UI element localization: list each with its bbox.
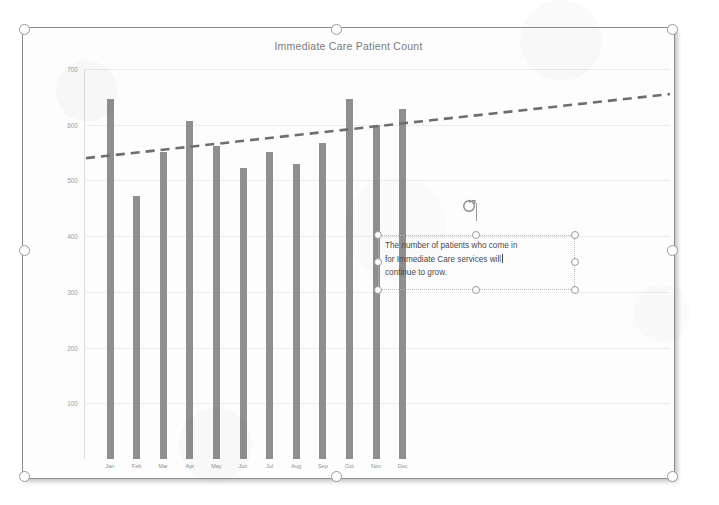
- textbox-line-3: continue to grow.: [385, 268, 447, 277]
- x-axis-tick-label: May: [211, 463, 221, 469]
- y-axis-tick-label: 500: [67, 177, 78, 184]
- y-axis-tick-label: 700: [67, 66, 78, 73]
- bar-jan[interactable]: [107, 99, 114, 459]
- textbox-handle-top-right[interactable]: [571, 231, 579, 239]
- x-axis-tick-label: Dec: [398, 463, 408, 469]
- x-axis-tick-label: Jan: [106, 463, 115, 469]
- bar-jul[interactable]: [266, 152, 273, 459]
- chart-handle-bottom-left[interactable]: [19, 471, 30, 482]
- x-axis-tick-label: Apr: [186, 463, 195, 469]
- chart-area: Immediate Care Patient Count 70060050040…: [24, 29, 673, 477]
- textbox-handle-bottom-right[interactable]: [571, 286, 579, 294]
- textbox[interactable]: The number of patients who come in for I…: [378, 235, 575, 290]
- x-axis-tick-label: Jul: [266, 463, 273, 469]
- y-axis-tick-label: 600: [67, 121, 78, 128]
- bar-feb[interactable]: [133, 196, 140, 459]
- chart-handle-bottom-center[interactable]: [331, 471, 342, 482]
- text-caret: [502, 254, 503, 263]
- textbox-handle-top-left[interactable]: [374, 231, 382, 239]
- bar-may[interactable]: [213, 146, 220, 459]
- chart-handle-top-left[interactable]: [19, 24, 30, 35]
- x-axis-tick-label: Feb: [132, 463, 141, 469]
- x-axis-tick-label: Nov: [371, 463, 381, 469]
- textbox-handle-middle-right[interactable]: [571, 258, 579, 266]
- chart-handle-top-center[interactable]: [331, 24, 342, 35]
- chart-title: Immediate Care Patient Count: [24, 40, 673, 52]
- textbox-handle-middle-left[interactable]: [374, 258, 382, 266]
- x-axis-tick-label: Mar: [158, 463, 167, 469]
- x-axis-tick-label: Aug: [291, 463, 301, 469]
- bar-aug[interactable]: [293, 164, 300, 459]
- textbox-handle-bottom-left[interactable]: [374, 286, 382, 294]
- y-axis-tick-label: 300: [67, 288, 78, 295]
- chart-handle-middle-left[interactable]: [19, 245, 30, 256]
- bar-oct[interactable]: [346, 99, 353, 459]
- y-axis-tick-label: 400: [67, 233, 78, 240]
- y-axis-tick-label: 200: [67, 344, 78, 351]
- x-axis-tick-label: Sep: [318, 463, 328, 469]
- bar-sep[interactable]: [319, 143, 326, 459]
- y-axis-tick-label: 100: [67, 400, 78, 407]
- chart-handle-middle-right[interactable]: [667, 245, 678, 256]
- rotate-handle-icon[interactable]: [462, 199, 476, 213]
- bar-apr[interactable]: [186, 121, 193, 459]
- bar-jun[interactable]: [240, 168, 247, 459]
- textbox-line-1: The number of patients who come in: [385, 241, 517, 250]
- textbox-line-2: for Immediate Care services will: [385, 255, 501, 264]
- bar-mar[interactable]: [160, 152, 167, 459]
- chart-handle-top-right[interactable]: [667, 24, 678, 35]
- textbox-handle-top-center[interactable]: [472, 231, 480, 239]
- textbox-handle-bottom-center[interactable]: [472, 286, 480, 294]
- x-axis-tick-label: Jun: [239, 463, 248, 469]
- chart-object[interactable]: Immediate Care Patient Count 70060050040…: [24, 29, 673, 477]
- chart-handle-bottom-right[interactable]: [667, 471, 678, 482]
- textbox-text[interactable]: The number of patients who come in for I…: [385, 239, 568, 280]
- x-axis-tick-label: Oct: [345, 463, 354, 469]
